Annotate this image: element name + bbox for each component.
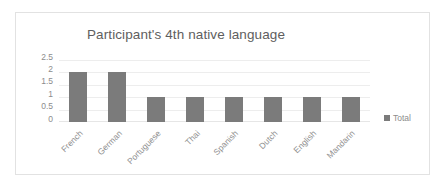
- legend-entry-label: Total: [393, 113, 411, 123]
- y-axis-tick-label: 0.5: [19, 102, 53, 111]
- bar-french[interactable]: [69, 72, 87, 122]
- bar-portuguese[interactable]: [147, 97, 165, 122]
- x-slot: Portuguese: [137, 125, 176, 185]
- y-axis-tick-label: 1: [19, 90, 53, 99]
- x-slot: English: [292, 125, 331, 185]
- y-axis-tick-label: 1.5: [19, 77, 53, 86]
- x-axis-tick-label: Thai: [183, 129, 201, 147]
- chart-title: Participant's 4th native language: [16, 27, 356, 42]
- legend-swatch-icon: [384, 115, 390, 121]
- bar-thai[interactable]: [186, 97, 204, 122]
- bar-slot: [292, 60, 331, 122]
- bar-dutch[interactable]: [264, 97, 282, 122]
- y-axis-tick-label: 2.5: [19, 53, 53, 62]
- category-axis: French German Portuguese Thai Spanish Du…: [59, 125, 370, 185]
- bar-slot: [215, 60, 254, 122]
- x-slot: Mandarin: [331, 125, 370, 185]
- bar-slot: [98, 60, 137, 122]
- value-axis: 2.5 2 1.5 1 0.5 0: [19, 53, 53, 129]
- chart-legend[interactable]: Total: [384, 113, 411, 123]
- x-slot: Dutch: [253, 125, 292, 185]
- plot-area: [59, 60, 370, 122]
- bar-slot: [176, 60, 215, 122]
- x-slot: Spanish: [215, 125, 254, 185]
- x-axis-tick-label: Dutch: [257, 129, 279, 151]
- bar-slot: [331, 60, 370, 122]
- y-axis-tick-label: 2: [19, 65, 53, 74]
- x-axis-tick-label: English: [292, 129, 318, 155]
- chart-frame: Participant's 4th native language 2.5 2 …: [15, 12, 430, 175]
- x-axis-tick-label: German: [96, 129, 124, 157]
- bar-slot: [137, 60, 176, 122]
- x-slot: Thai: [176, 125, 215, 185]
- bar-english[interactable]: [303, 97, 321, 122]
- bar-slot: [253, 60, 292, 122]
- bar-slot: [59, 60, 98, 122]
- bar-spanish[interactable]: [225, 97, 243, 122]
- x-axis-tick-label: French: [60, 129, 85, 154]
- bar-mandarin[interactable]: [342, 97, 360, 122]
- y-axis-tick-label: 0: [19, 115, 53, 124]
- bar-german[interactable]: [108, 72, 126, 122]
- x-axis-tick-label: Mandarin: [326, 129, 357, 160]
- x-axis-tick-label: Spanish: [212, 129, 240, 157]
- x-slot: French: [59, 125, 98, 185]
- bar-series-total: [59, 60, 370, 122]
